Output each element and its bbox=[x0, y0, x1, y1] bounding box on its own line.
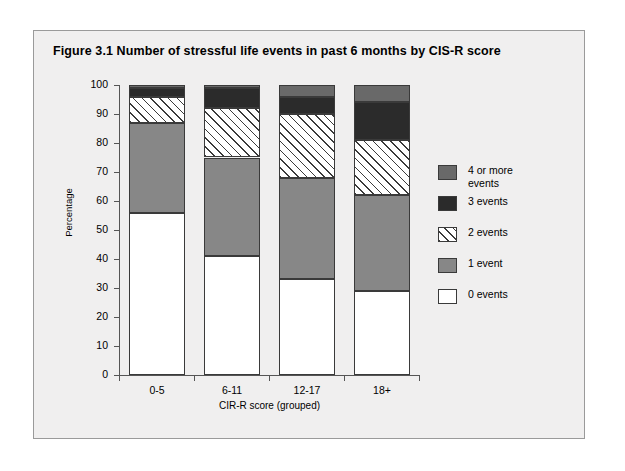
legend: 4 or more events3 events2 events1 event0… bbox=[438, 165, 578, 320]
bar-segment-12-17-3-events bbox=[279, 97, 335, 114]
y-axis-title: Percentage bbox=[63, 168, 74, 258]
y-tick-label: 90 bbox=[82, 108, 108, 119]
y-tick-label: 80 bbox=[82, 137, 108, 148]
legend-swatch-icon bbox=[438, 165, 457, 180]
legend-item-0-events: 0 events bbox=[438, 289, 578, 320]
bar-segment-6-11-2-events bbox=[204, 108, 260, 157]
page-title: Figure 3.1 Number of stressful life even… bbox=[53, 44, 501, 58]
x-tick-mark bbox=[269, 376, 270, 381]
plot-area bbox=[119, 85, 419, 375]
bar-segment-18+-4-or-more-events bbox=[354, 85, 410, 102]
y-tick-label: 60 bbox=[82, 195, 108, 206]
x-tick-mark bbox=[344, 376, 345, 381]
x-tick-mark bbox=[194, 376, 195, 381]
bar-segment-12-17-0-events bbox=[279, 279, 335, 375]
y-tick-label: 100 bbox=[82, 79, 108, 90]
bar-6-11 bbox=[204, 85, 260, 375]
legend-item-2-events: 2 events bbox=[438, 227, 578, 258]
x-tick-label: 0-5 bbox=[122, 384, 192, 396]
bar-18+ bbox=[354, 85, 410, 375]
bar-segment-0-5-4-or-more-events bbox=[129, 85, 185, 88]
bar-segment-0-5-1-event bbox=[129, 123, 185, 213]
figure-card: Figure 3.1 Number of stressful life even… bbox=[33, 30, 585, 439]
x-tick-label: 12-17 bbox=[272, 384, 342, 396]
x-axis-title: CIR-R score (grouped) bbox=[119, 400, 420, 411]
screenshot-root: Figure 3.1 Number of stressful life even… bbox=[0, 0, 625, 471]
bar-segment-12-17-2-events bbox=[279, 114, 335, 178]
bar-segment-6-11-4-or-more-events bbox=[204, 85, 260, 88]
bar-segment-0-5-0-events bbox=[129, 213, 185, 375]
y-tick-label: 0 bbox=[82, 369, 108, 380]
legend-swatch-icon bbox=[438, 258, 457, 273]
legend-label: 1 event bbox=[468, 257, 578, 270]
legend-item-4-or-more-events: 4 or more events bbox=[438, 165, 578, 196]
bar-segment-18+-1-event bbox=[354, 195, 410, 291]
legend-label: 3 events bbox=[468, 195, 578, 208]
y-tick-label: 70 bbox=[82, 166, 108, 177]
x-tick-mark bbox=[119, 376, 120, 381]
bar-12-17 bbox=[279, 85, 335, 375]
bar-segment-12-17-1-event bbox=[279, 178, 335, 280]
x-tick-label: 18+ bbox=[347, 384, 417, 396]
legend-label: 2 events bbox=[468, 226, 578, 239]
legend-item-3-events: 3 events bbox=[438, 196, 578, 227]
y-axis-tick-labels: 0102030405060708090100 bbox=[78, 31, 108, 440]
y-tick-label: 50 bbox=[82, 224, 108, 235]
bar-segment-18+-0-events bbox=[354, 291, 410, 375]
bar-segment-0-5-3-events bbox=[129, 88, 185, 97]
bar-segment-18+-3-events bbox=[354, 102, 410, 140]
x-tick-mark bbox=[419, 376, 420, 381]
bar-0-5 bbox=[129, 85, 185, 375]
legend-item-1-event: 1 event bbox=[438, 258, 578, 289]
bar-segment-18+-2-events bbox=[354, 140, 410, 195]
legend-label: 4 or more events bbox=[468, 164, 530, 190]
x-tick-label: 6-11 bbox=[197, 384, 267, 396]
bar-segment-6-11-3-events bbox=[204, 88, 260, 108]
bar-segment-6-11-0-events bbox=[204, 256, 260, 375]
y-tick-label: 30 bbox=[82, 282, 108, 293]
legend-label: 0 events bbox=[468, 288, 578, 301]
y-tick-label: 40 bbox=[82, 253, 108, 264]
y-tick-label: 10 bbox=[82, 340, 108, 351]
bar-segment-0-5-2-events bbox=[129, 97, 185, 123]
legend-swatch-icon bbox=[438, 196, 457, 211]
y-tick-label: 20 bbox=[82, 311, 108, 322]
bar-segment-12-17-4-or-more-events bbox=[279, 85, 335, 97]
legend-swatch-icon bbox=[438, 227, 457, 242]
legend-swatch-icon bbox=[438, 289, 457, 304]
bar-segment-6-11-1-event bbox=[204, 158, 260, 257]
